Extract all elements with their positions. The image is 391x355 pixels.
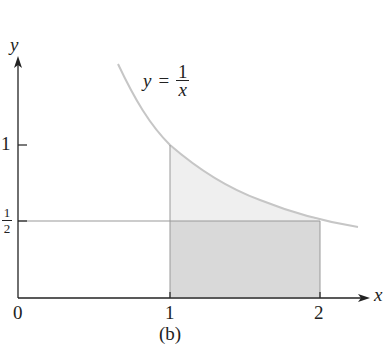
x-tick-label-1: 1 — [165, 302, 175, 324]
half-denominator: 2 — [1, 222, 13, 235]
equation-numerator: 1 — [178, 63, 188, 80]
figure-canvas — [0, 0, 391, 355]
equation-denominator: x — [178, 81, 186, 98]
equation-fraction: 1 x — [176, 63, 189, 98]
y-axis-label: y — [10, 34, 18, 56]
equation-equals: = — [158, 70, 169, 92]
half-numerator: 1 — [1, 206, 13, 219]
equation-label: y = 1 x — [143, 63, 189, 98]
rectangle-region — [170, 221, 320, 297]
x-tick-label-0: 0 — [13, 302, 23, 324]
x-tick-label-2: 2 — [314, 302, 324, 324]
equation-lhs: y — [143, 70, 151, 92]
y-tick-label-half: 1 2 — [1, 206, 13, 235]
figure-caption: (b) — [159, 323, 181, 345]
x-axis-label: x — [374, 284, 382, 306]
y-tick-label-1: 1 — [1, 133, 11, 155]
